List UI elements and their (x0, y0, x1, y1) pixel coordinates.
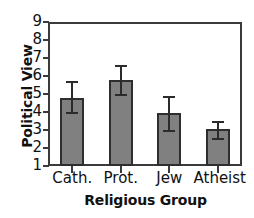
x-axis-tick-label: Atheist (194, 170, 243, 187)
error-bar-line (71, 81, 73, 112)
y-axis-tick-label: 4 (26, 104, 42, 119)
y-axis-tick-label: 9 (26, 14, 42, 29)
x-axis-tick-label: Cath. (48, 170, 97, 187)
y-axis-tick-label: 6 (26, 68, 42, 83)
y-axis-tick-mark (43, 57, 49, 59)
error-bar-line (168, 96, 170, 130)
y-axis-tick-label: 8 (26, 32, 42, 47)
y-axis-tick-mark (43, 111, 49, 113)
y-axis-tick-mark (43, 93, 49, 95)
error-bar-cap-upper (66, 81, 78, 83)
y-axis-tick-label: 1 (26, 158, 42, 173)
y-axis-tick-label: 5 (26, 86, 42, 101)
error-bar-cap-lower (115, 94, 127, 96)
y-axis-tick-mark (43, 165, 49, 167)
y-axis-tick-label: 7 (26, 50, 42, 65)
y-axis-tick-labels: 123456789 (24, 0, 42, 218)
error-bar-cap-upper (115, 65, 127, 67)
error-bar-line (217, 121, 219, 138)
y-axis-tick-mark (43, 129, 49, 131)
error-bar-cap-lower (163, 130, 175, 132)
y-axis-tick-mark (43, 147, 49, 149)
y-axis-tick-label: 2 (26, 140, 42, 155)
y-axis-tick-mark (43, 39, 49, 41)
bar-chart: Political View 123456789 Religious Group… (0, 0, 254, 218)
error-bar-cap-upper (212, 121, 224, 123)
error-bar-cap-lower (212, 138, 224, 140)
x-axis-tick-label: Jew (145, 170, 194, 187)
y-axis-tick-mark (43, 21, 49, 23)
x-axis-title: Religious Group (48, 192, 243, 208)
y-axis-tick-mark (43, 75, 49, 77)
error-bar-cap-upper (163, 96, 175, 98)
x-axis-tick-label: Prot. (97, 170, 146, 187)
error-bar-line (120, 65, 122, 94)
error-bar-cap-lower (66, 112, 78, 114)
y-axis-tick-label: 3 (26, 122, 42, 137)
